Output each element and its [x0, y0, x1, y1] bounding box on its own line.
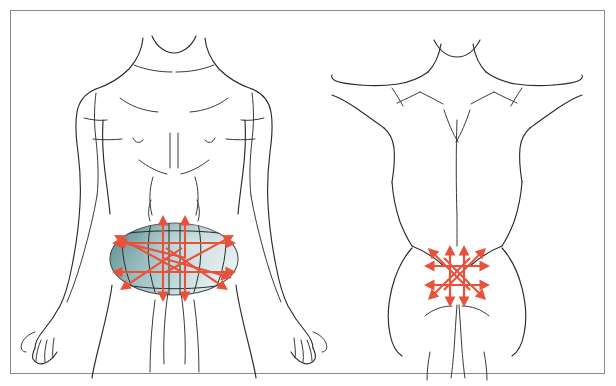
posterior-right-scapula-lower [456, 110, 470, 142]
anterior-left-inner-arm-line [95, 93, 99, 196]
posterior-left-arm-lower [332, 95, 384, 128]
posterior-left-iliac-crest [412, 246, 444, 266]
anterior-right-hip [236, 285, 256, 378]
arrow-left-upper-head [424, 261, 435, 272]
anterior-neck-left [96, 38, 143, 89]
anterior-right-thumb [313, 332, 327, 352]
anterior-left-pec-lower [120, 98, 158, 112]
posterior-right-iliac-crest [470, 246, 502, 266]
posterior-right-arm-upper [554, 75, 582, 85]
anterior-right-nipple [205, 138, 215, 142]
posterior-left-torso-side [392, 182, 412, 246]
posterior-left-arm-side [384, 128, 394, 182]
anterior-figure [21, 36, 327, 378]
arrow-down-right-vertical-head [459, 297, 470, 308]
posterior-right-arm-side [520, 128, 530, 182]
posterior-left-scapula-lower [444, 110, 458, 142]
anterior-right-arm-outline [252, 89, 313, 348]
illustration-plate: Abdominal and lumbosacral massage direct… [0, 0, 616, 386]
anterior-left-nipple [133, 138, 143, 142]
arrow-up-right-vertical-head [180, 215, 191, 226]
posterior-right-scapula-upper [471, 92, 494, 104]
arrow-left-lower-head [424, 280, 435, 291]
arrow-down-left-vertical-head [445, 297, 456, 308]
anterior-left-torso-side [103, 120, 110, 214]
posterior-right-thigh-line [484, 352, 487, 380]
posterior-right-lat-line [494, 92, 517, 103]
posterior-figure [332, 40, 583, 380]
anterior-right-hand-finger-1 [307, 340, 312, 361]
posterior-right-gluteal-outline [502, 248, 526, 356]
posterior-left-gluteal-outline [388, 248, 412, 356]
anterior-left-hand-finger-2 [45, 340, 47, 362]
anterior-right-torso-side [238, 120, 245, 214]
posterior-left-gluteal-fold [425, 306, 452, 316]
anterior-left-arm-outline [35, 89, 96, 348]
posterior-gluteal-cleft [451, 305, 457, 378]
anterior-left-thigh-inner [150, 300, 155, 372]
arrow-right-lower-head [480, 280, 491, 291]
posterior-left-arm-upper [332, 75, 360, 85]
posterior-nape-curve [434, 40, 480, 57]
anterior-right-pectoral [176, 65, 214, 72]
anterior-right-inner-arm-line [250, 93, 254, 196]
plate-canvas [0, 0, 616, 386]
anterior-neck-right [205, 38, 252, 89]
posterior-right-arm-lower [530, 95, 582, 128]
arrow-up-left-vertical-head [158, 215, 169, 226]
anterior-right-pec-lower [190, 98, 228, 112]
anterior-right-hand-finger-3 [294, 338, 295, 358]
anterior-right-rectus-line [195, 177, 198, 215]
anterior-neck-notch [152, 36, 196, 53]
posterior-trap-right [486, 72, 554, 86]
posterior-gluteal-cleft-right [459, 305, 465, 378]
posterior-trap-left [360, 72, 428, 86]
anterior-left-pec-fold [93, 139, 122, 140]
anterior-right-hand-finger-2 [301, 340, 303, 362]
anterior-right-groin-line [181, 293, 185, 364]
anterior-right-forearm-line [251, 196, 281, 302]
posterior-spine-line [456, 120, 457, 246]
posterior-right-gluteal-fold [462, 306, 489, 316]
anterior-left-groin-line [164, 293, 168, 364]
anterior-left-hand-finger-3 [53, 338, 54, 358]
anterior-left-hip [92, 285, 112, 378]
anterior-left-thumb [21, 332, 35, 352]
anterior-left-pectoral [134, 65, 172, 72]
anterior-left-forearm-line [67, 196, 97, 302]
anterior-right-costal-margin [181, 160, 209, 174]
anterior-left-rectus-line [150, 177, 153, 215]
lumbosacral-arrow-star [424, 245, 490, 307]
anterior-left-costal-margin [139, 160, 167, 174]
anterior-right-thigh-inner [194, 300, 199, 372]
posterior-left-lat-line [397, 92, 420, 103]
arrow-right-upper-head [480, 261, 491, 272]
anterior-left-hand-finger-1 [36, 340, 41, 361]
posterior-left-thigh-line [427, 352, 430, 380]
anterior-right-pec-fold [226, 139, 255, 140]
posterior-right-torso-side [502, 182, 522, 246]
posterior-left-scapula-upper [420, 92, 443, 104]
